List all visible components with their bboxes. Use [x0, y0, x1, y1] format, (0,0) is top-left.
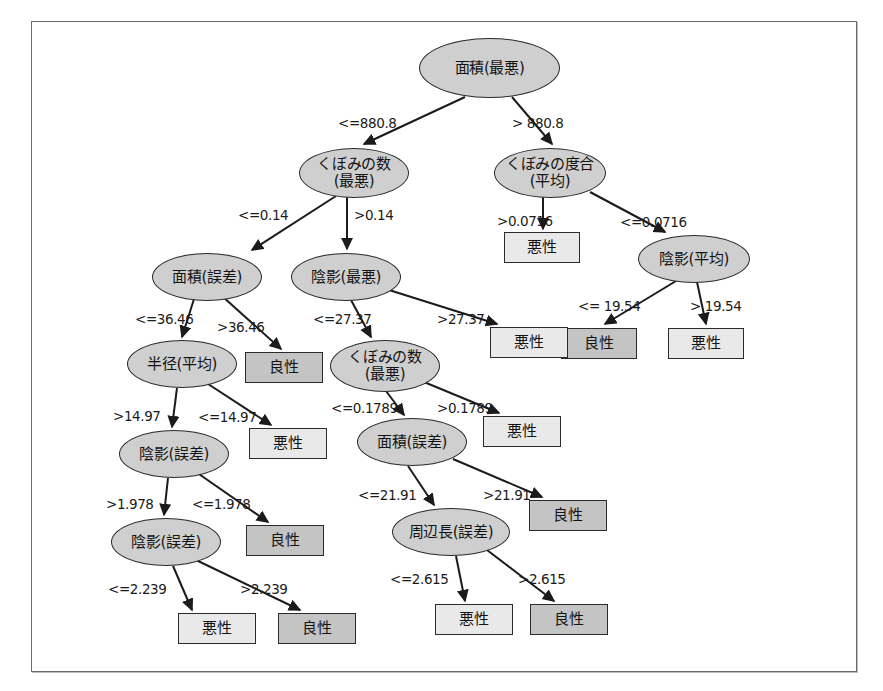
edge-label-e17: >1.978 [106, 498, 154, 512]
edge-label-e9: <=36.46 [135, 313, 193, 327]
edge-label-e2: > 880.8 [512, 117, 563, 131]
edge-label-e21: <=2.239 [108, 583, 166, 597]
edge-label-e16: >0.1789 [437, 402, 493, 416]
edge-label-e14: <=14.97 [198, 411, 256, 425]
edge-label-e22: >2.239 [240, 583, 288, 597]
edge-label-e3: <=0.14 [238, 209, 288, 223]
edge-label-e5: >0.0716 [497, 215, 553, 229]
edge-label-e15: <=0.1789 [331, 402, 398, 416]
edge-label-e7: <= 19.54 [578, 300, 640, 314]
edge-label-e18: <=1.978 [192, 498, 250, 512]
edge-label-e4: >0.14 [354, 209, 393, 223]
edge-label-e1: <=880.8 [338, 117, 396, 131]
edge-label-e8: > 19.54 [690, 300, 741, 314]
tree-edge-label-layer: <=880.8> 880.8<=0.14>0.14>0.0716<=0.0716… [0, 0, 883, 691]
edge-label-e12: >27.37 [437, 313, 485, 327]
edge-label-e11: <=27.37 [313, 313, 371, 327]
edge-label-e13: >14.97 [113, 410, 161, 424]
edge-label-e23: <=2.615 [390, 573, 448, 587]
edge-label-e10: >36.46 [217, 321, 265, 335]
edge-label-e24: >2.615 [518, 573, 566, 587]
edge-label-e20: >21.91 [483, 489, 531, 503]
edge-label-e6: <=0.0716 [620, 216, 687, 230]
edge-label-e19: <=21.91 [358, 489, 416, 503]
